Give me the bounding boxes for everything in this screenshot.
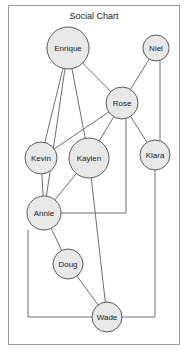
node-circle-wade[interactable] xyxy=(92,302,122,332)
social-chart-svg: Social Chart EnriqueNielRoseKevinKaylenK… xyxy=(0,0,188,350)
node-circle-rose[interactable] xyxy=(106,87,138,119)
node-circle-enrique[interactable] xyxy=(47,27,89,69)
node-circle-niel[interactable] xyxy=(143,35,169,61)
node-circle-kevin[interactable] xyxy=(25,142,57,174)
node-circle-doug[interactable] xyxy=(53,249,83,279)
node-kaylen[interactable]: Kaylen xyxy=(69,138,109,178)
node-doug[interactable]: Doug xyxy=(53,249,83,279)
node-circle-kaylen[interactable] xyxy=(69,138,109,178)
node-circle-klara[interactable] xyxy=(140,140,170,170)
social-chart-canvas: Social Chart EnriqueNielRoseKevinKaylenK… xyxy=(0,0,188,350)
node-klara[interactable]: Klara xyxy=(140,140,170,170)
node-wade[interactable]: Wade xyxy=(92,302,122,332)
node-annie[interactable]: Annie xyxy=(27,196,61,230)
node-niel[interactable]: Niel xyxy=(143,35,169,61)
node-rose[interactable]: Rose xyxy=(106,87,138,119)
node-enrique[interactable]: Enrique xyxy=(47,27,89,69)
node-kevin[interactable]: Kevin xyxy=(25,142,57,174)
node-circle-annie[interactable] xyxy=(27,196,61,230)
chart-title: Social Chart xyxy=(69,11,119,21)
